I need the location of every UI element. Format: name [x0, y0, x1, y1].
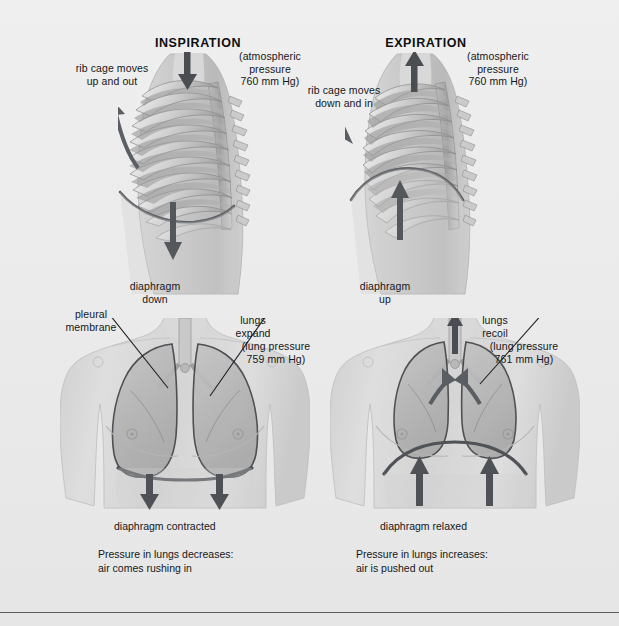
heading-expiration: EXPIRATION [348, 36, 504, 50]
label-pleural-membrane: pleural membrane [48, 308, 134, 333]
label-ribcage-expiration: rib cage moves down and in [284, 84, 404, 109]
ribcage-side-view-inspiration [118, 52, 278, 297]
caption-summary-inspiration: Pressure in lungs decreases: air comes r… [98, 548, 233, 575]
label-atmospheric-pressure-left: (atmospheric pressure 760 mm Hg) [214, 50, 326, 88]
label-lungs-recoil: lungs recoil [466, 314, 524, 339]
label-diaphragm-up: diaphragm up [340, 280, 430, 305]
caption-diaphragm-relaxed: diaphragm relaxed [380, 520, 467, 534]
abdomen-fill [351, 168, 463, 294]
label-lung-pressure-expiration: (lung pressure 761 mm Hg) [470, 340, 578, 365]
bottom-rule [0, 612, 619, 613]
label-lung-pressure-inspiration: (lung pressure 759 mm Hg) [222, 340, 330, 365]
label-diaphragm-down: diaphragm down [110, 280, 200, 305]
abdomen [384, 474, 526, 508]
ribcage-inspiration-svg [118, 52, 278, 297]
label-lungs-expand: lungs expand [222, 314, 284, 339]
heading-inspiration: INSPIRATION [120, 36, 276, 50]
caption-diaphragm-contracted: diaphragm contracted [114, 520, 216, 534]
respiration-diagram: INSPIRATION rib cage moves up and out (a… [0, 0, 619, 626]
abdomen [116, 468, 254, 508]
label-ribcage-inspiration: rib cage moves up and out [52, 62, 172, 87]
caption-summary-expiration: Pressure in lungs increases: air is push… [356, 548, 488, 575]
label-atmospheric-pressure-right: (atmospheric pressure 760 mm Hg) [442, 50, 554, 88]
